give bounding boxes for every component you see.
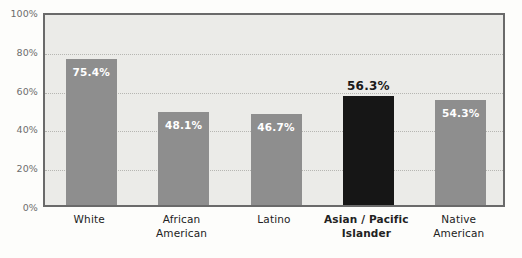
x-category-label-line: African: [135, 212, 227, 226]
x-category-label: AfricanAmerican: [135, 212, 227, 240]
x-category-label: Asian / PacificIslander: [320, 212, 412, 240]
bars-layer: 75.4%48.1%46.7%56.3%54.3%: [45, 15, 503, 205]
x-category-label-line: Native: [413, 212, 505, 226]
x-category-label-line: Asian / Pacific: [320, 212, 412, 226]
y-tick-label: 40%: [17, 124, 38, 135]
bar-value-label: 46.7%: [251, 121, 302, 133]
bar[interactable]: 48.1%: [158, 112, 209, 205]
x-category-label-line: Latino: [228, 212, 320, 226]
x-category-label-line: American: [135, 226, 227, 240]
y-tick-label: 20%: [17, 163, 38, 174]
plot-area: 75.4%48.1%46.7%56.3%54.3%: [43, 13, 505, 207]
y-tick-label: 100%: [10, 8, 38, 19]
bar-value-label: 48.1%: [158, 119, 209, 131]
bar[interactable]: 75.4%: [66, 59, 117, 205]
y-axis: 0%20%40%60%80%100%: [0, 0, 41, 258]
bar-value-label: 75.4%: [66, 66, 117, 78]
bar[interactable]: 46.7%: [251, 114, 302, 205]
y-tick-label: 0%: [23, 202, 38, 213]
x-axis: WhiteAfricanAmericanLatinoAsian / Pacifi…: [43, 212, 505, 258]
x-category-label-line: White: [43, 212, 135, 226]
bar[interactable]: 56.3%: [343, 96, 394, 205]
bar-value-label: 54.3%: [435, 107, 486, 119]
bar-value-label: 56.3%: [331, 79, 406, 93]
x-category-label: NativeAmerican: [413, 212, 505, 240]
x-category-label: Latino: [228, 212, 320, 226]
x-category-label: White: [43, 212, 135, 226]
bar[interactable]: 54.3%: [435, 100, 486, 205]
x-category-label-line: American: [413, 226, 505, 240]
y-tick-label: 60%: [17, 85, 38, 96]
y-tick-label: 80%: [17, 46, 38, 57]
x-category-label-line: Islander: [320, 226, 412, 240]
bar-chart: 0%20%40%60%80%100% 75.4%48.1%46.7%56.3%5…: [0, 0, 522, 258]
